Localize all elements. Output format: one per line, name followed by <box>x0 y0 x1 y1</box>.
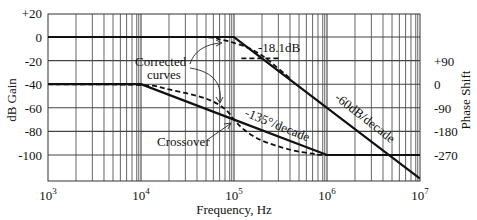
y2-tick-label: -90 <box>434 101 451 116</box>
x-tick-label: 107 <box>411 186 429 203</box>
bode-plot: +200-20-40-60-80-100 +900-90-180-270 103… <box>0 0 477 220</box>
y-tick-label: 0 <box>36 30 43 45</box>
y-tick-label: -80 <box>25 124 42 139</box>
y2-axis-ticks: +900-90-180-270 <box>434 54 458 163</box>
y-axis-label: dB Gain <box>4 78 19 122</box>
annotation-18db: -18.1dB <box>258 40 301 55</box>
y-tick-label: -60 <box>25 101 42 116</box>
x-axis-ticks: 103104105106107 <box>39 186 429 203</box>
y2-axis-label: Phase Shift <box>458 70 473 129</box>
y-tick-label: -100 <box>18 148 42 163</box>
y2-tick-label: 0 <box>434 77 441 92</box>
annotation-crossover: Crossover <box>157 134 210 149</box>
x-tick-label: 104 <box>132 186 150 203</box>
y2-tick-label: +90 <box>434 54 454 69</box>
annotation-curves: curves <box>147 67 181 82</box>
y-tick-label: -40 <box>25 77 42 92</box>
x-tick-label: 103 <box>39 186 57 203</box>
arrow-to-crossover <box>207 124 230 140</box>
y-axis-ticks: +200-20-40-60-80-100 <box>18 6 42 163</box>
y2-tick-label: -180 <box>434 124 458 139</box>
y-tick-label: +20 <box>22 6 42 21</box>
y-tick-label: -20 <box>25 54 42 69</box>
x-tick-label: 105 <box>225 186 243 203</box>
x-tick-label: 106 <box>318 186 336 203</box>
arrow-to-phase-curve <box>190 68 220 102</box>
annotation-phase-slope: -135°/decade <box>243 105 313 145</box>
y2-tick-label: -270 <box>434 148 458 163</box>
x-axis-label: Frequency, Hz <box>196 202 272 217</box>
